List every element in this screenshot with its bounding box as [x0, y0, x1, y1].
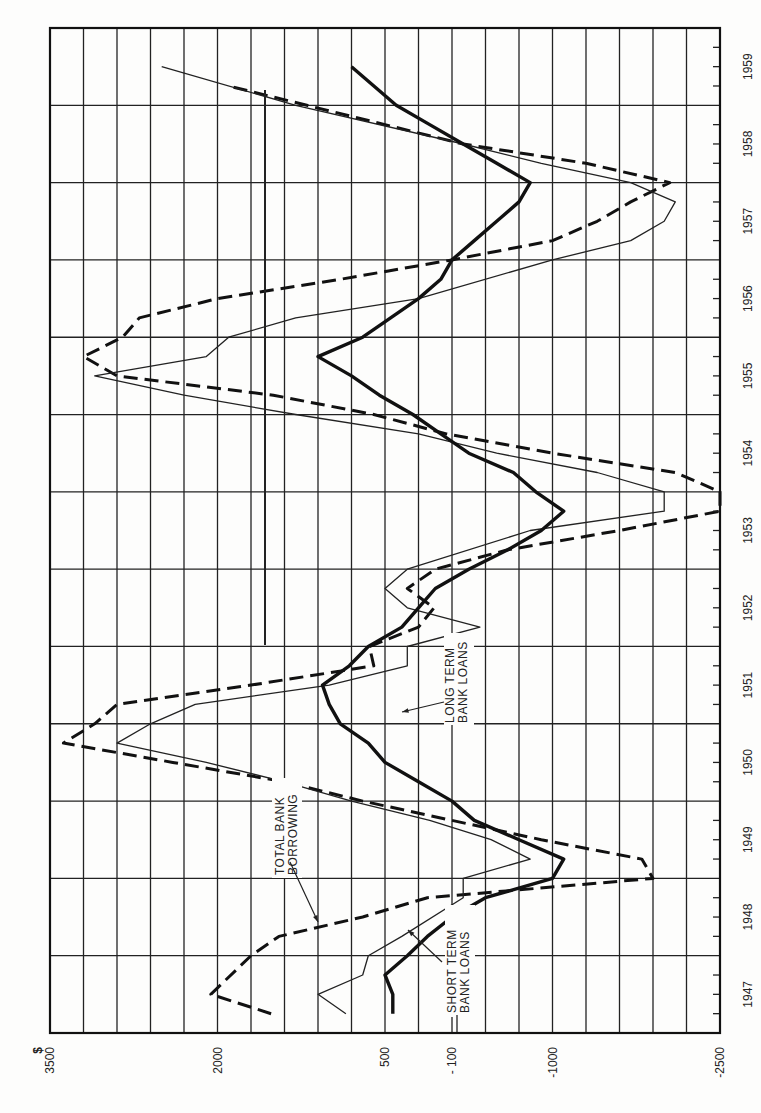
long-arrow-head: [402, 708, 409, 713]
chart-series: [63, 67, 720, 1014]
unit-label: $: [31, 1047, 45, 1054]
long-term-bank-loans-label: BANK LOANS: [456, 641, 470, 723]
value-tick-label: - 100: [445, 1047, 459, 1075]
year-label: 1954: [741, 440, 755, 467]
short-term-bank-loans-label: SHORT TERM: [445, 929, 459, 1013]
year-label: 1947: [741, 981, 755, 1008]
year-label: 1959: [741, 53, 755, 80]
value-tick-label: 2000: [211, 1047, 225, 1074]
value-tick-label: -2500: [713, 1047, 727, 1078]
year-label: 1951: [741, 671, 755, 698]
year-label: 1949: [741, 826, 755, 853]
long-term-bank-loans-label: LONG TERM: [443, 647, 457, 723]
value-tick-label: -1000: [546, 1047, 560, 1078]
bank-borrowing-chart: 35002000500- 100-1000-2500$1947194819491…: [0, 0, 761, 1113]
year-label: 1952: [741, 594, 755, 621]
series-total-bank-borrowing: [63, 86, 720, 1014]
year-label: 1950: [741, 749, 755, 776]
year-label: 1955: [741, 362, 755, 389]
total-arrow-head: [313, 915, 318, 922]
chart-grid: [50, 28, 720, 1033]
year-label: 1953: [741, 517, 755, 544]
year-label: 1948: [741, 903, 755, 930]
year-label: 1958: [741, 130, 755, 157]
year-label: 1956: [741, 285, 755, 312]
short-term-bank-loans-label: BANK LOANS: [458, 931, 472, 1013]
total-bank-borrowing-label: BORROWING: [286, 794, 300, 875]
total-bank-borrowing-label: TOTAL BANK: [273, 797, 287, 875]
series-annotations: TOTAL BANKBORROWINGLONG TERMBANK LOANSSH…: [272, 633, 475, 1033]
value-tick-label: 3500: [43, 1047, 57, 1074]
series-long-term-bank-loans: [318, 67, 564, 1014]
year-label: 1957: [741, 208, 755, 235]
value-tick-label: 500: [378, 1047, 392, 1067]
axis-labels: 35002000500- 100-1000-2500$1947194819491…: [31, 53, 755, 1078]
short-arrow: [408, 930, 442, 962]
total-arrow: [290, 862, 318, 922]
title-rule: [264, 90, 266, 645]
